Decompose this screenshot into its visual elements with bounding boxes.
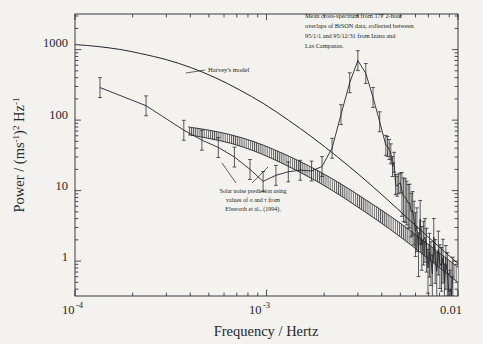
y-axis-title-p1: Power / (ms — [11, 142, 28, 212]
y-tick-label: 1000 — [43, 36, 68, 50]
svg-text:-3: -3 — [263, 300, 270, 310]
svg-text:-4: -4 — [76, 300, 84, 310]
y-axis-title-p3: Hz — [11, 104, 27, 125]
note-line: overlaps of BiSON data, collected betwee… — [305, 22, 415, 29]
y-axis-title-e1: -1 — [11, 135, 21, 143]
note-line: Mean cross-spectrum from 177 2-hour — [305, 12, 403, 19]
svg-text:10: 10 — [249, 303, 262, 317]
svg-text:0.01: 0.01 — [440, 303, 462, 317]
y-tick-label: 10 — [56, 179, 69, 193]
paper-background — [0, 0, 483, 344]
x-axis-title: Frequency / Hertz — [214, 323, 319, 339]
y-tick-label: 1 — [62, 250, 68, 264]
svg-text:Power / (ms-1)2 Hz-1: Power / (ms-1)2 Hz-1 — [11, 98, 28, 213]
harveys-model-label: Harvey's model — [208, 66, 249, 73]
svg-text:10: 10 — [62, 303, 75, 317]
y-axis-title: Power / (ms-1)2 Hz-1 — [11, 98, 28, 213]
note-line: 95/1/1 and 95/12/31 from Izana and — [305, 32, 396, 39]
solar-noise-note: Solar noise prediction using values of σ… — [219, 188, 286, 213]
x-tick-label: 0.01 — [440, 303, 462, 317]
y-axis-title-e3: -1 — [11, 98, 21, 106]
note-line: Elsworth et al., (1994). — [225, 206, 281, 213]
note-line: values of σ and τ from — [226, 197, 280, 203]
note-line: Las Campanas. — [305, 42, 344, 49]
power-spectrum-chart: 1000 100 10 1 10 -4 10 -3 0.01 Frequency… — [0, 0, 483, 344]
note-line: Solar noise prediction using — [219, 188, 286, 194]
x-axis-title-text: Frequency / Hertz — [214, 323, 319, 339]
y-tick-label: 100 — [49, 108, 68, 122]
figure-canvas: as we are plotting theto study the regio… — [0, 0, 483, 344]
